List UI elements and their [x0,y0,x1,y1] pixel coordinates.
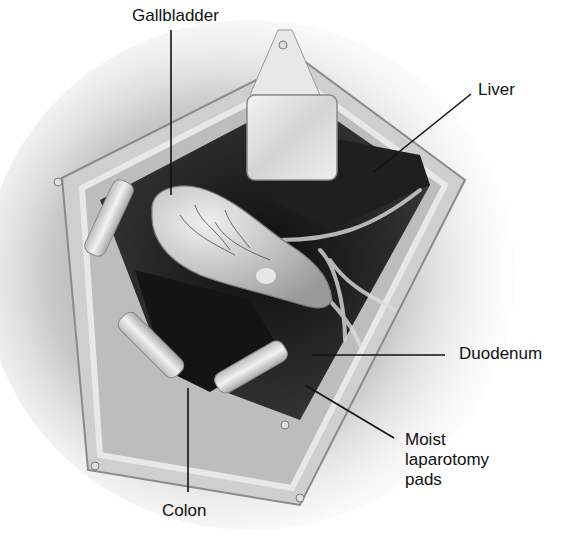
cystic-node [256,268,276,284]
label-line-laparotomy: laparotomy [405,450,515,470]
label-moist-laparotomy-pads: Moist laparotomy pads [405,430,515,490]
retractor-blade [247,95,337,180]
label-liver: Liver [478,80,515,100]
label-gallbladder: Gallbladder [132,6,219,26]
label-duodenum: Duodenum [459,344,542,364]
label-colon: Colon [162,501,206,521]
label-line-moist: Moist [405,430,515,450]
label-line-pads: pads [405,470,515,490]
